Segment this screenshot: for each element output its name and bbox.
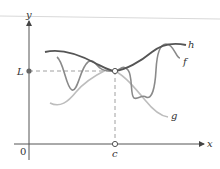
x-axis-label: x (207, 138, 213, 149)
origin-label: 0 (20, 146, 26, 157)
top-rule (0, 16, 220, 19)
limit-label: L (16, 66, 24, 77)
curve-g (50, 70, 168, 117)
curve-h-label: h (188, 39, 194, 50)
limit-point (26, 68, 31, 73)
curve-g-label: g (171, 110, 177, 121)
c-point-on-axis (112, 141, 117, 146)
curve-f-label: f (182, 56, 189, 67)
y-axis-label: y (25, 9, 32, 20)
squeeze-theorem-diagram: y x 0 L c h f g (0, 0, 220, 169)
open-point-c (112, 68, 117, 73)
curve-h (45, 44, 186, 71)
c-label: c (112, 148, 118, 159)
